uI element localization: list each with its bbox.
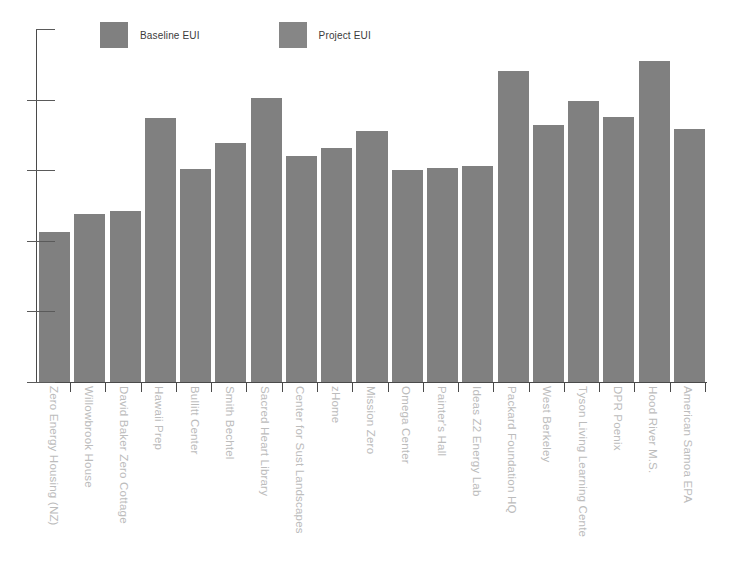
x-axis-line — [36, 382, 707, 383]
y-tick-80 — [27, 100, 55, 101]
y-tick-0 — [27, 382, 55, 383]
x-axis-label: DPR Poenix — [612, 386, 624, 451]
bar[interactable] — [251, 98, 282, 382]
x-axis-category-labels: Zero Energy Housing (NZ)Willowbrook Hous… — [37, 386, 707, 581]
bar[interactable] — [286, 156, 317, 382]
x-axis-label: zHome — [330, 386, 342, 423]
bar[interactable] — [180, 169, 211, 382]
x-axis-label: Bullitt Center — [189, 386, 201, 455]
x-axis-label: Packard Foundation HQ — [506, 386, 518, 514]
bar[interactable] — [356, 131, 387, 382]
x-axis-label: Omega Center — [400, 386, 412, 464]
bar[interactable] — [74, 214, 105, 382]
x-axis-label: Ideas Z2 Energy Lab — [471, 386, 483, 497]
x-axis-label: Painter's Hall — [436, 386, 448, 456]
bar-chart: Baseline EUI Project EUI 020406080100 Ze… — [0, 0, 737, 581]
x-axis-label: Zero Energy Housing (NZ) — [48, 386, 60, 526]
x-axis-label: Tyson Living Learning Cente — [577, 386, 589, 537]
bar[interactable] — [39, 232, 70, 382]
x-axis-label: West Berkeley — [541, 386, 553, 463]
bar[interactable] — [498, 71, 529, 382]
y-tick-20 — [27, 311, 55, 312]
bar[interactable] — [215, 143, 246, 382]
bar[interactable] — [145, 118, 176, 382]
plot-area — [36, 29, 707, 382]
bar[interactable] — [603, 117, 634, 382]
x-axis-label: American Samoa EPA — [682, 386, 694, 503]
bar[interactable] — [568, 101, 599, 382]
x-axis-label: Hood River M.S. — [647, 386, 659, 473]
x-axis-label: Smith Bechtel — [224, 386, 236, 460]
bars-group — [37, 29, 707, 382]
bar[interactable] — [533, 125, 564, 382]
bar[interactable] — [427, 168, 458, 382]
x-axis-label: Sacred Heart Library — [259, 386, 271, 496]
x-axis-label: David Baker Zero Cottage — [118, 386, 130, 524]
y-tick-100 — [36, 29, 55, 30]
bar[interactable] — [321, 148, 352, 382]
bar[interactable] — [392, 170, 423, 382]
x-axis-label: Center for Sust Landscapes — [294, 386, 306, 534]
x-axis-label: Hawaii Prep — [153, 386, 165, 450]
bar[interactable] — [462, 166, 493, 382]
bar[interactable] — [674, 129, 705, 382]
bar[interactable] — [639, 61, 670, 382]
bar[interactable] — [110, 211, 141, 382]
x-axis-label: Willowbrook House — [83, 386, 95, 488]
y-tick-40 — [27, 241, 55, 242]
x-axis-label: Mission Zero — [365, 386, 377, 454]
y-tick-60 — [27, 170, 55, 171]
